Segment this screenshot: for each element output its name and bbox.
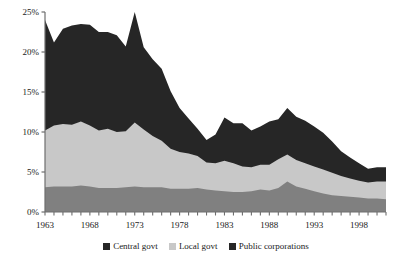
y-axis-tick-labels: 0%5%10%15%20%25% — [23, 7, 40, 217]
y-axis-tick-label: 0% — [27, 207, 40, 217]
x-axis-tick-label: 1983 — [215, 220, 234, 230]
legend-item-central-govt: Central govt — [103, 241, 158, 251]
legend-label: Public corporations — [239, 241, 309, 251]
chart-legend: Central govtLocal govtPublic corporation… — [0, 241, 412, 251]
legend-item-local-govt: Local govt — [169, 241, 218, 251]
y-axis-tick-label: 5% — [27, 167, 40, 177]
x-axis-tick-label: 1978 — [171, 220, 190, 230]
x-axis-tick-label: 1993 — [305, 220, 324, 230]
legend-label: Central govt — [113, 241, 158, 251]
y-axis-tick-label: 15% — [23, 87, 40, 97]
legend-item-public-corporations: Public corporations — [229, 241, 309, 251]
x-axis-tick-label: 1973 — [126, 220, 145, 230]
x-axis-tick-label: 1963 — [36, 220, 55, 230]
y-axis-tick-label: 25% — [23, 7, 40, 17]
chart-container: 0%5%10%15%20%25% 19631968197319781983198… — [0, 0, 412, 266]
x-axis-tick-label: 1968 — [81, 220, 100, 230]
stacked-area-chart: 0%5%10%15%20%25% 19631968197319781983198… — [0, 0, 412, 266]
area-series-group — [45, 12, 386, 212]
legend-swatch-icon — [169, 243, 176, 250]
x-axis-tick-label: 1998 — [350, 220, 369, 230]
x-axis-tick-labels: 19631968197319781983198819931998 — [36, 220, 369, 230]
y-axis-tick-label: 20% — [23, 47, 40, 57]
legend-swatch-icon — [103, 243, 110, 250]
legend-swatch-icon — [229, 243, 236, 250]
x-axis-tick-label: 1988 — [260, 220, 279, 230]
legend-label: Local govt — [179, 241, 218, 251]
y-axis-tick-label: 10% — [23, 127, 40, 137]
